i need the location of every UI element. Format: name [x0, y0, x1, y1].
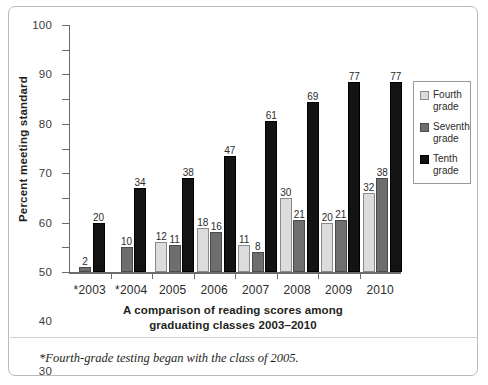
- bar: 32: [363, 193, 375, 272]
- chart-legend: FourthgradeSeventhgradeTenthgrade: [413, 81, 471, 184]
- x-category-label: 2010: [367, 283, 395, 297]
- y-tick-label-50: 50: [39, 266, 52, 278]
- y-tick-label-60: 60: [39, 217, 52, 229]
- bar-value-label: 20: [93, 212, 104, 223]
- y-tick-label-90: 90: [39, 68, 52, 80]
- bar: 69: [307, 102, 319, 272]
- legend-label-line-1: Seventh: [433, 121, 470, 133]
- x-category-label: 2005: [159, 283, 187, 297]
- y-tick-label-30: 30: [39, 365, 52, 377]
- bar-value-label: 69: [307, 91, 318, 102]
- x-category-label: *2004: [115, 283, 147, 297]
- bar-value-label: 11: [170, 234, 180, 245]
- bar-value-label: 77: [349, 71, 360, 82]
- chart-caption: A comparison of reading scores among gra…: [53, 303, 413, 333]
- bar: 16: [210, 232, 222, 272]
- caption-line-2: graduating classes 2003–2010: [53, 318, 413, 333]
- legend-item-label: Fourthgrade: [433, 89, 462, 112]
- legend-label-line-1: Fourth: [433, 89, 462, 101]
- bar-value-label: 34: [134, 177, 145, 188]
- legend-item: Seventhgrade: [420, 121, 465, 144]
- y-tick-10: 10: [62, 247, 69, 248]
- bar-value-label: 21: [294, 209, 305, 220]
- bar: 2: [79, 267, 91, 272]
- legend-item-label: Tenthgrade: [433, 153, 459, 176]
- bar: 21: [335, 220, 347, 272]
- bar: 38: [376, 178, 388, 272]
- bar-group: 202177: [318, 25, 360, 272]
- x-tick: [235, 273, 236, 279]
- y-tick-label-80: 80: [39, 118, 52, 130]
- bar-value-label: 8: [255, 241, 261, 252]
- bar-group: 1034: [111, 25, 153, 272]
- bar: 77: [348, 82, 360, 272]
- y-tick-0: 0: [62, 272, 69, 273]
- bar-group: 181647: [194, 25, 236, 272]
- bar: 30: [280, 198, 292, 272]
- legend-label-line-2: grade: [433, 165, 459, 177]
- legend-label-line-2: grade: [433, 133, 470, 145]
- bar-group: 11861: [235, 25, 277, 272]
- bar-value-label: 32: [363, 182, 374, 193]
- bar: 10: [121, 247, 133, 272]
- plot-area: 1009080706050403020100 22010341211381816…: [69, 25, 401, 273]
- x-tick: [277, 273, 278, 279]
- bar-value-label: 20: [322, 212, 333, 223]
- bar-value-label: 47: [224, 145, 235, 156]
- y-tick-20: 20: [62, 223, 69, 224]
- y-tick-90: 90: [62, 50, 69, 51]
- legend-item-label: Seventhgrade: [433, 121, 470, 144]
- y-axis-title-text: Percent meeting standard: [17, 76, 29, 222]
- legend-item: Fourthgrade: [420, 89, 465, 112]
- x-tick: [111, 273, 112, 279]
- bar: 11: [169, 245, 181, 272]
- bar-value-label: 77: [390, 71, 401, 82]
- y-tick-100: 100: [62, 25, 69, 26]
- caption-line-1: A comparison of reading scores among: [53, 303, 413, 318]
- y-axis-title: Percent meeting standard: [15, 25, 31, 273]
- legend-label-line-2: grade: [433, 101, 462, 113]
- bar-value-label: 10: [121, 236, 132, 247]
- bar: 21: [293, 220, 305, 272]
- legend-swatch-icon: [420, 91, 429, 100]
- bar-value-label: 16: [211, 221, 222, 232]
- x-category-label: 2006: [201, 283, 229, 297]
- legend-label-line-1: Tenth: [433, 153, 459, 165]
- chart-figure: Percent meeting standard 100908070605040…: [8, 6, 478, 376]
- legend-swatch-icon: [420, 123, 429, 132]
- legend-swatch-icon: [420, 155, 429, 164]
- x-category-label: *2003: [74, 283, 106, 297]
- bar: 18: [197, 228, 209, 272]
- bar-value-label: 2: [82, 256, 88, 267]
- y-tick-80: 80: [62, 74, 69, 75]
- x-category-label: 2009: [325, 283, 353, 297]
- bar-group: 302169: [277, 25, 319, 272]
- footnote-divider: [10, 337, 478, 338]
- bar-group: 323877: [360, 25, 402, 272]
- legend-item: Tenthgrade: [420, 153, 465, 176]
- bar-value-label: 18: [197, 217, 208, 228]
- bar: 77: [390, 82, 402, 272]
- bar-value-label: 21: [335, 209, 346, 220]
- y-tick-label-70: 70: [39, 167, 52, 179]
- y-tick-label-40: 40: [39, 315, 52, 327]
- x-tick: [360, 273, 361, 279]
- bar: 20: [93, 223, 105, 272]
- y-tick-label-100: 100: [32, 19, 52, 31]
- bar: 12: [155, 242, 167, 272]
- bar-value-label: 12: [156, 231, 167, 242]
- bar: 61: [265, 121, 277, 272]
- x-category-label: 2008: [284, 283, 312, 297]
- bar: 47: [224, 156, 236, 272]
- x-category-label: 2007: [242, 283, 270, 297]
- y-tick-30: 30: [62, 198, 69, 199]
- x-tick: [152, 273, 153, 279]
- bar-value-label: 61: [266, 110, 277, 121]
- bar: 11: [238, 245, 250, 272]
- bar: 8: [252, 252, 264, 272]
- y-tick-50: 50: [62, 149, 69, 150]
- y-tick-60: 60: [62, 124, 69, 125]
- x-tick: [194, 273, 195, 279]
- bar: 20: [321, 223, 333, 272]
- y-tick-40: 40: [62, 173, 69, 174]
